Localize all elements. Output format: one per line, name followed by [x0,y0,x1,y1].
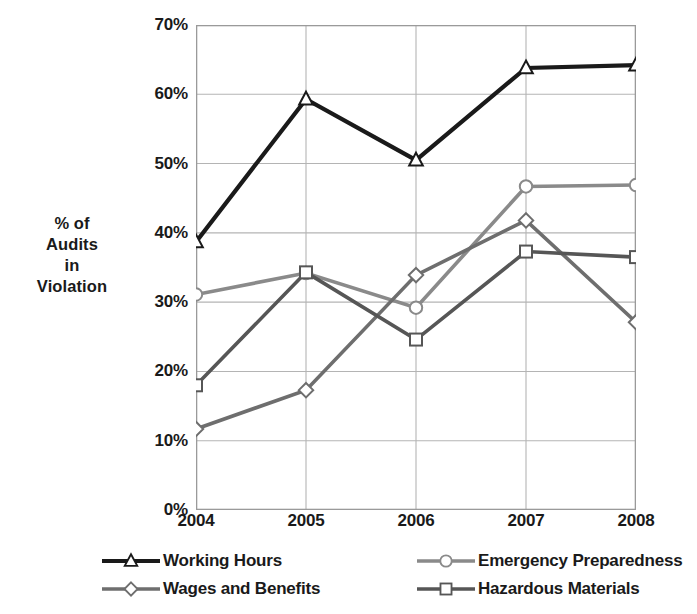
marker-circle-icon [196,288,202,300]
legend-label-working-hours: Working Hours [163,551,282,571]
legend-swatch-square-icon [415,579,477,599]
legend-marker-circle-icon [415,551,477,571]
marker-square-icon [440,583,451,594]
legend-item-working-hours[interactable]: Working Hours [100,548,282,574]
legend-label-hazardous-materials: Hazardous Materials [478,579,640,599]
legend-item-emergency-preparedness[interactable]: Emergency Preparedness [415,548,682,574]
marker-diamond-icon [124,582,137,595]
legend-label-wages-and-benefits: Wages and Benefits [163,579,320,599]
legend-item-wages-and-benefits[interactable]: Wages and Benefits [100,576,320,602]
legend-swatch-circle-icon [415,551,477,571]
x-axis-tick-2004: 2004 [151,511,241,531]
marker-circle-icon [440,555,451,566]
x-axis-tick-2008: 2008 [591,511,681,531]
plot-area [196,25,636,510]
marker-square-icon [300,266,312,278]
x-axis-tick-2005: 2005 [261,511,351,531]
x-axis-tick-2006: 2006 [371,511,461,531]
legend-marker-square-icon [415,579,477,599]
legend-label-emergency-preparedness: Emergency Preparedness [478,551,682,571]
marker-square-icon [520,246,532,258]
legend-item-hazardous-materials[interactable]: Hazardous Materials [415,576,640,602]
marker-square-icon [410,334,422,346]
marker-circle-icon [630,179,636,191]
legend-marker-diamond-icon [100,579,162,599]
legend-swatch-diamond-icon [100,579,162,599]
x-axis-tick-2007: 2007 [481,511,571,531]
chart-legend: Working Hours Emergency Preparedness Wag… [100,548,660,608]
marker-circle-icon [410,301,422,313]
marker-square-icon [630,251,636,263]
marker-square-icon [196,379,202,391]
marker-circle-icon [520,180,532,192]
legend-swatch-triangle-icon [100,551,162,571]
legend-marker-triangle-icon [100,551,162,571]
marker-triangle-icon [299,92,313,105]
line-chart: % of Audits in Violation 0%10%20%30%40%5… [0,0,697,614]
marker-diamond-icon [196,422,203,436]
